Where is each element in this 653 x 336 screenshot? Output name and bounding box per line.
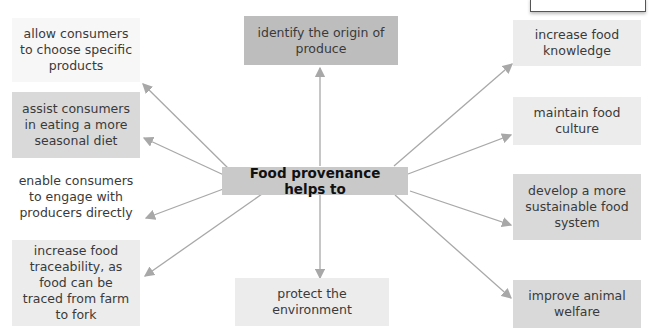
arrow-sustainable: [410, 191, 511, 225]
node-seasonal-diet: assist consumers in eating a more season…: [12, 92, 140, 158]
arrow-knowledge: [394, 64, 512, 166]
center-node: Food provenance helps to: [222, 167, 408, 195]
node-food-knowledge: increase food knowledge: [513, 20, 641, 66]
arrow-traceability: [145, 194, 262, 276]
arrow-assist: [144, 138, 226, 176]
node-animal-welfare: improve animal welfare: [513, 280, 641, 328]
node-identify-origin: identify the origin of produce: [244, 16, 398, 65]
arrow-animal: [395, 195, 511, 298]
node-traceability: increase food traceability, as food can …: [12, 240, 140, 326]
node-protect-environment: protect the environment: [235, 278, 389, 326]
node-sustainable-system: develop a more sustainable food system: [513, 174, 641, 240]
node-engage-producers: enable consumers to engage with producer…: [12, 166, 140, 228]
node-choose-products: allow consumers to choose specific produ…: [12, 18, 140, 82]
arrow-enable: [146, 188, 226, 218]
node-food-culture: maintain food culture: [513, 97, 641, 145]
